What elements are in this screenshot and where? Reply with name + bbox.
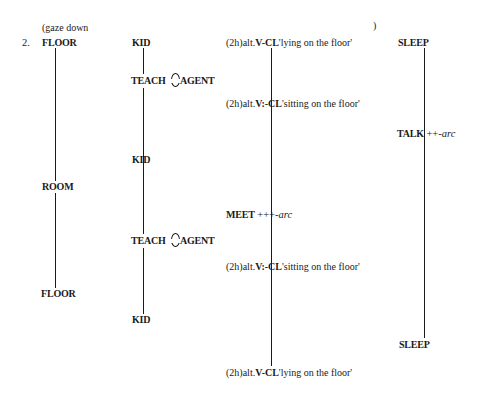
- tier-4-gloss-sleep-2: SLEEP: [399, 339, 430, 351]
- tier-3-classifier-lying: (2h)alt.V-CL'lying on the floor': [226, 37, 352, 49]
- nonmanual-gaze-close: ): [373, 20, 376, 32]
- tier-1-gloss-room: ROOM: [41, 181, 74, 193]
- tier-1-gloss-floor: FLOOR: [42, 37, 77, 49]
- nonmanual-gaze-open: (gaze down: [42, 22, 88, 34]
- tier-2-compound-teach-agent: TEACH AGENT: [131, 74, 221, 88]
- tier-3-gloss-meet: MEET +++-arc: [226, 209, 292, 221]
- tier-1-line: [55, 48, 56, 288]
- tier-4-line: [424, 48, 425, 338]
- tier-2-gloss-kid-2: KID: [132, 154, 150, 166]
- compound-left: TEACH: [131, 235, 166, 247]
- tier-3-classifier-sitting: (2h)alt.V:-CL'sitting on the floor': [226, 98, 360, 110]
- tier-2-gloss-kid: KID: [132, 37, 150, 49]
- tier-1-gloss-floor-2: FLOOR: [41, 288, 76, 300]
- compound-left: TEACH: [131, 75, 166, 87]
- tier-3-line: [271, 48, 272, 366]
- tier-3-classifier-sitting-2: (2h)alt.V:-CL'sitting on the floor': [226, 261, 360, 273]
- compound-right: AGENT: [180, 75, 215, 87]
- tier-2-gloss-kid-3: KID: [132, 314, 150, 326]
- compound-right: AGENT: [180, 235, 215, 247]
- tier-3-classifier-lying-2: (2h)alt.V-CL'lying on the floor': [226, 367, 352, 379]
- tier-2-compound-teach-agent-2: TEACH AGENT: [131, 234, 221, 248]
- example-number: 2.: [22, 37, 30, 49]
- tier-4-gloss-talk: TALK ++-arc: [397, 128, 455, 140]
- tier-4-gloss-sleep: SLEEP: [398, 37, 429, 49]
